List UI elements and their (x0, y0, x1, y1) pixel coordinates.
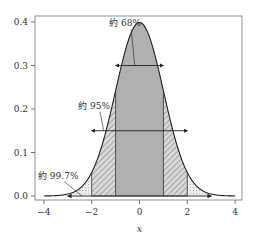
annotation-label: 約 95% (78, 100, 110, 111)
x-tick-label: 4 (232, 207, 238, 217)
annotation-label: 約 99.7% (38, 170, 79, 181)
x-axis-label: x (137, 224, 142, 234)
x-tick-label: 0 (137, 207, 143, 217)
y-tick-label: 0.1 (14, 148, 28, 158)
x-tick-label: −4 (37, 207, 51, 217)
x-axis-ticks: −4−2024 (37, 200, 238, 217)
y-tick-label: 0.2 (14, 104, 28, 114)
normal-distribution-chart: 約 68%約 95%約 99.7% −4−2024 0.00.10.20.30.… (0, 0, 259, 246)
y-tick-label: 0.0 (14, 191, 29, 201)
annotation-leader (100, 112, 104, 131)
region-1-sigma (116, 22, 164, 196)
x-tick-label: 2 (184, 207, 190, 217)
y-tick-label: 0.3 (14, 61, 29, 71)
x-tick-label: −2 (85, 207, 98, 217)
annotation-label: 約 68% (109, 17, 141, 28)
y-tick-label: 0.4 (14, 17, 29, 27)
y-axis-ticks: 0.00.10.20.30.4 (14, 17, 35, 201)
